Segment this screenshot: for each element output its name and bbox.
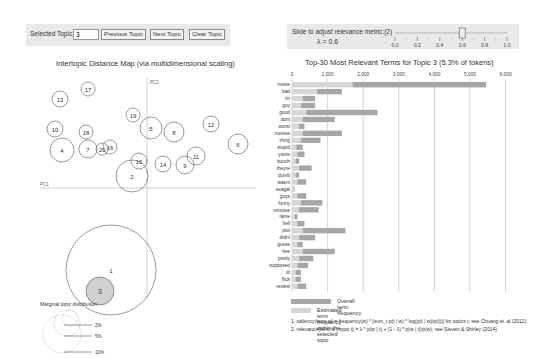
estimated-bar [292, 270, 296, 275]
clear-topic-button[interactable]: Clear Topic [189, 29, 225, 40]
topic-label: 18 [83, 130, 90, 136]
term-row-didnt[interactable]: didnt [280, 235, 316, 240]
term-row-movies[interactable]: movies [275, 131, 342, 136]
term-row-movie[interactable]: movie [277, 82, 486, 87]
term-label: dont [281, 117, 291, 122]
term-row-review[interactable]: review [276, 284, 306, 289]
topic-label: 1 [109, 268, 113, 274]
estimated-bar [292, 89, 317, 94]
overall-bar [303, 249, 335, 254]
estimated-bar [292, 152, 297, 157]
axis-tick-label: 5,000 [464, 72, 476, 77]
topic-circle-6[interactable]: 6 [228, 134, 248, 154]
marginal-label: 10% [95, 350, 104, 355]
topic-circle-4[interactable]: 4 [50, 138, 74, 162]
topic-circle-10[interactable]: 10 [47, 121, 63, 137]
term-label: lame [280, 214, 291, 219]
term-row-theyre[interactable]: theyre [277, 165, 312, 170]
term-row-id[interactable]: id [286, 270, 301, 275]
axis-tick-label: 3,000 [393, 72, 405, 77]
overall-bar [296, 277, 301, 282]
overall-bar [295, 214, 297, 219]
estimated-bar [292, 186, 294, 191]
overall-bar [303, 228, 346, 233]
term-label: guy [282, 103, 290, 108]
topic-circle-9[interactable]: 9 [176, 156, 194, 174]
selected-topic-input[interactable] [73, 29, 99, 40]
term-row-bunch[interactable]: bunch [277, 158, 299, 163]
slider-handle[interactable] [459, 28, 465, 38]
previous-topic-button[interactable]: Previous Topic [101, 29, 146, 40]
lambda-value: λ = 0.6 [317, 38, 338, 45]
term-row-hes[interactable]: hes [282, 249, 334, 254]
topic-circle-18[interactable]: 18 [79, 125, 93, 139]
legend-estimated-label: Estimated term frequency within the sele… [317, 307, 341, 343]
topic-label: 20 [99, 147, 106, 153]
term-row-lame[interactable]: lame [280, 214, 298, 219]
term-row-plot[interactable]: plot [282, 228, 345, 233]
overall-bar [297, 242, 302, 247]
relevance-slider[interactable]: 0.00.20.40.60.81.0 [387, 26, 517, 48]
topic-control-bar: Selected Topic: Previous Topic Next Topi… [26, 24, 230, 46]
term-label: guess [277, 242, 290, 247]
slider-tick-label: 1.0 [504, 42, 511, 48]
bar-chart-title: Top-30 Most Relevant Terms for Topic 3 (… [305, 58, 494, 67]
overall-bar [294, 186, 295, 191]
term-row-bad[interactable]: bad [282, 89, 342, 94]
term-row-im[interactable]: im [285, 96, 315, 101]
term-row-good[interactable]: good [279, 110, 377, 115]
estimated-bar [292, 165, 299, 170]
term-row-guess[interactable]: guess [277, 242, 302, 247]
term-label: worst [279, 124, 291, 129]
footnote-relevance: 2. relevance(term w | topic t) = λ * p(w… [291, 326, 497, 332]
term-row-worst[interactable]: worst [279, 124, 305, 129]
topic-circle-17[interactable]: 17 [81, 82, 95, 96]
topic-circle-5[interactable]: 5 [140, 117, 162, 139]
term-row-dumb[interactable]: dumb [278, 172, 299, 177]
topic-label: 4 [60, 148, 64, 154]
axis-tick-label: 4,000 [428, 72, 440, 77]
topic-label: 13 [57, 97, 64, 103]
topic-circle-14[interactable]: 14 [155, 156, 171, 172]
term-row-youre[interactable]: youre [278, 152, 304, 157]
next-topic-button[interactable]: Next Topic [150, 29, 184, 40]
estimated-bar [292, 242, 297, 247]
pc2-label: PC2 [150, 80, 159, 85]
slider-tick-label: 0.4 [436, 42, 443, 48]
marginal-label: 2% [95, 323, 102, 328]
topic-circle-15[interactable]: 15 [131, 153, 147, 169]
topic-circle-19[interactable]: 19 [126, 108, 140, 122]
topic-circle-11[interactable]: 11 [187, 147, 205, 165]
term-row-thing[interactable]: thing [280, 138, 321, 143]
estimated-bar [292, 103, 301, 108]
topic-circle-12[interactable]: 12 [203, 116, 219, 132]
term-row-guys[interactable]: guys [280, 193, 306, 198]
term-row-dont[interactable]: dont [281, 117, 335, 122]
topic-label: 10 [52, 127, 59, 133]
estimated-bar [292, 124, 299, 129]
term-row-supposed[interactable]: supposed [269, 263, 308, 268]
term-row-funny[interactable]: funny [278, 200, 322, 205]
term-row-stupid[interactable]: stupid [277, 145, 302, 150]
overall-bar [303, 117, 335, 122]
term-row-minutes[interactable]: minutes [273, 207, 318, 212]
term-label: seagal [276, 187, 290, 192]
overall-bar [299, 256, 313, 261]
term-row-guy[interactable]: guy [282, 103, 315, 108]
topic-circle-8[interactable]: 8 [164, 122, 184, 142]
term-bar-chart: 01,0002,0003,0004,0005,0006,000moviebadi… [250, 68, 538, 296]
overall-bar [296, 145, 302, 150]
estimated-bar [292, 214, 295, 219]
topic-circle-7[interactable]: 7 [79, 140, 97, 158]
estimated-bar [292, 179, 297, 184]
estimated-bar [292, 284, 297, 289]
overall-bar [297, 263, 308, 268]
estimated-bar [292, 249, 303, 254]
overall-bar [306, 110, 377, 115]
term-row-pretty[interactable]: pretty [278, 256, 313, 261]
estimated-bar [292, 172, 296, 177]
topic-circle-13[interactable]: 13 [52, 91, 68, 107]
estimated-bar [292, 256, 299, 261]
term-row-flick[interactable]: flick [282, 277, 301, 282]
term-row-hell[interactable]: hell [283, 221, 305, 226]
